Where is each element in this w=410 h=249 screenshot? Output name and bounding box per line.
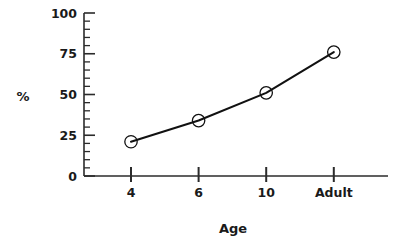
y-tick-label: 50 xyxy=(60,87,78,102)
x-axis-title: Age xyxy=(219,221,247,236)
y-tick-label: 75 xyxy=(60,46,77,61)
x-tick-label: Adult xyxy=(315,185,353,200)
y-tick-label: 25 xyxy=(60,128,77,143)
y-axis-title: % xyxy=(16,89,29,104)
chart-background xyxy=(0,0,410,249)
x-tick-label: 4 xyxy=(127,185,136,200)
x-tick-label: 10 xyxy=(257,185,275,200)
line-chart: 0255075100 4610Adult % Age xyxy=(0,0,410,249)
y-tick-label: 100 xyxy=(51,6,77,21)
y-tick-label: 0 xyxy=(68,169,77,184)
x-tick-label: 6 xyxy=(194,185,203,200)
chart-figure: 0255075100 4610Adult % Age xyxy=(0,0,410,249)
